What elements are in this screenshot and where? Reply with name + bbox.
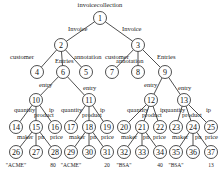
edge-label: Entries: [157, 53, 176, 60]
tree-node-16: 16: [49, 121, 62, 134]
tree-node-28: 28: [49, 146, 62, 159]
node-id: 3: [136, 41, 140, 50]
tree-node-14: 14: [10, 121, 23, 134]
edge-label: pn: [38, 133, 45, 140]
node-id: 29: [67, 148, 75, 157]
tree-node-17: 17: [65, 121, 78, 134]
node-id: 14: [12, 123, 20, 132]
edge-label: pn: [143, 133, 150, 140]
node-id: 25: [207, 123, 215, 132]
node-id: 34: [156, 148, 164, 157]
tree-node-34: 34: [154, 146, 167, 159]
tree-node-31: 31: [101, 146, 114, 159]
leaf-values: "ACME"80"ACME"20"BSA"40"BSA"13: [6, 162, 214, 168]
leaf-value-29: "ACME": [61, 162, 81, 168]
tree-node-2: 2: [55, 39, 68, 52]
node-id: 19: [103, 123, 111, 132]
edge-label: maker: [172, 133, 189, 140]
node-id: 1: [98, 14, 102, 23]
tree-node-35: 35: [170, 146, 183, 159]
node-id: 2: [59, 41, 63, 50]
edge-label: Invoice: [68, 25, 88, 32]
node-id: 33: [138, 148, 146, 157]
leaf-value-32: "BSA": [116, 162, 131, 168]
node-id: 35: [172, 148, 180, 157]
edge-label: Entries: [55, 57, 74, 64]
node-id: 37: [207, 148, 215, 157]
node-id: 6: [61, 68, 65, 77]
node-id: 31: [103, 148, 111, 157]
node-id: 27: [32, 148, 40, 157]
tree-node-3: 3: [132, 39, 145, 52]
edge-label: annotation: [74, 53, 102, 60]
tree-node-7: 7: [106, 66, 119, 79]
node-id: 23: [172, 123, 180, 132]
node-id: 4: [35, 68, 39, 77]
tree-node-33: 33: [136, 146, 149, 159]
tree-node-32: 32: [118, 146, 131, 159]
edge-label: ip: [49, 106, 54, 113]
edge-6-11: [67, 77, 84, 95]
tree-node-5: 5: [80, 66, 93, 79]
edge-label: annotation: [116, 57, 144, 64]
tree-node-29: 29: [65, 146, 78, 159]
tree-node-13: 13: [178, 94, 191, 107]
tree-node-21: 21: [136, 121, 149, 134]
node-id: 26: [12, 148, 20, 157]
edge-label: entry: [83, 84, 97, 91]
tree-node-12: 12: [145, 94, 158, 107]
edge-label: quantity: [14, 106, 36, 113]
leaf-value-37: 13: [208, 162, 214, 168]
tree-node-37: 37: [205, 146, 218, 159]
node-id: 17: [67, 123, 75, 132]
edge-label: maker: [69, 133, 86, 140]
node-id: 30: [85, 148, 93, 157]
leaf-value-35: "BSA": [168, 162, 183, 168]
node-id: 10: [32, 96, 40, 105]
tree-node-30: 30: [83, 146, 96, 159]
node-id: 20: [120, 123, 128, 132]
edge-label: pn: [195, 133, 202, 140]
edge-label: price: [101, 133, 114, 140]
leaf-value-31: 20: [104, 162, 110, 168]
tree-node-18: 18: [83, 121, 96, 134]
leaf-value-28: 80: [50, 162, 56, 168]
edge-label: maker: [17, 133, 34, 140]
node-id: 13: [180, 96, 188, 105]
edge-label: ip: [206, 106, 211, 113]
node-id: 9: [163, 68, 167, 77]
tree-node-23: 23: [170, 121, 183, 134]
edge-label: customer: [10, 53, 35, 60]
tree-node-19: 19: [101, 121, 114, 134]
node-id: 15: [32, 123, 40, 132]
edge-label: ip: [100, 106, 105, 113]
node-id: 5: [84, 68, 88, 77]
tree-node-1: 1: [94, 12, 107, 25]
root-label: invoicecollection: [78, 1, 124, 8]
edge-label: Invoice: [122, 25, 142, 32]
tree-node-9: 9: [159, 66, 172, 79]
node-id: 11: [85, 96, 93, 105]
edge-label: price: [50, 133, 63, 140]
tree-node-20: 20: [118, 121, 131, 134]
tree-node-6: 6: [57, 66, 70, 79]
invoice-tree-diagram: invoicecollection InvoiceInvoicecustomer…: [0, 0, 224, 179]
tree-node-8: 8: [132, 66, 145, 79]
edge-label: product: [182, 111, 202, 118]
edge-label: entry: [178, 84, 192, 91]
tree-node-36: 36: [187, 146, 200, 159]
tree-node-27: 27: [30, 146, 43, 159]
tree-node-10: 10: [30, 94, 43, 107]
node-id: 16: [51, 123, 59, 132]
node-id: 12: [147, 96, 155, 105]
tree-node-4: 4: [31, 66, 44, 79]
edge-label: price: [153, 133, 166, 140]
edge-label: entry: [144, 81, 158, 88]
node-id: 7: [110, 68, 114, 77]
tree-node-11: 11: [83, 94, 96, 107]
edge-label: pn: [90, 133, 97, 140]
tree-node-24: 24: [187, 121, 200, 134]
node-id: 28: [51, 148, 59, 157]
tree-node-15: 15: [30, 121, 43, 134]
node-id: 36: [189, 148, 197, 157]
